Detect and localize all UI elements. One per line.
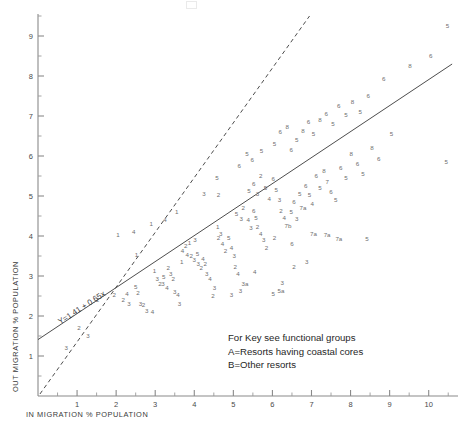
- data-point-label: 6: [307, 118, 311, 125]
- y-tick-label: 1: [29, 352, 33, 361]
- y-tick-label: 4: [29, 232, 33, 241]
- data-point-label: 8: [322, 167, 326, 174]
- data-point-label: 3: [178, 300, 182, 307]
- data-point-label: 7a: [299, 204, 306, 211]
- x-tick-label: 4: [192, 400, 196, 409]
- data-point-label: 5: [271, 290, 275, 297]
- data-point-label: 3: [262, 236, 266, 243]
- y-tick-label: 2: [29, 312, 33, 321]
- legend-line-key: For Key see functional groups: [228, 331, 363, 345]
- data-point-label: 7b: [285, 222, 292, 229]
- data-point-label: 3: [145, 307, 149, 314]
- x-tick-label: 3: [153, 400, 157, 409]
- data-point-label: 4: [311, 200, 315, 207]
- data-point-label: 5: [264, 184, 268, 191]
- data-point-label: 8: [286, 123, 290, 130]
- legend-block: For Key see functional groups A=Resorts …: [228, 331, 363, 372]
- data-point-label: 2: [171, 275, 175, 282]
- x-tick-label: 7: [309, 400, 313, 409]
- data-point-label: 2: [224, 247, 228, 254]
- data-point-label: 7a: [310, 230, 317, 237]
- data-point-label: 7a: [335, 235, 342, 242]
- data-point-label: 8: [370, 144, 374, 151]
- data-point-label: 3: [232, 252, 236, 259]
- data-point-label: 6: [314, 172, 318, 179]
- x-tick-label: 10: [425, 400, 433, 409]
- y-tick-label: 8: [29, 72, 33, 81]
- data-point-label: 2: [77, 324, 81, 331]
- data-point-label: 7: [325, 178, 329, 185]
- legend-line-a: A=Resorts having coastal cores: [228, 345, 363, 359]
- scatter-plot-figure: 12345678910123456789 3222435232341141323…: [0, 0, 466, 432]
- data-point-label: 4: [132, 228, 136, 235]
- data-point-label: 3: [193, 236, 197, 243]
- y-axis-title: OUT MIGRATION % POPULATION: [11, 261, 20, 392]
- data-point-label: 2: [211, 292, 215, 299]
- y-tick-label: 5: [29, 192, 33, 201]
- data-point-label: 5: [235, 210, 239, 217]
- data-point-label: 3: [64, 344, 68, 351]
- x-tick-label: 9: [388, 400, 392, 409]
- data-point-label: 6: [337, 102, 341, 109]
- data-point-label: 5: [312, 130, 316, 137]
- data-point-label: 4: [246, 216, 250, 223]
- data-point-label: 2: [292, 263, 296, 270]
- data-point-label: 2: [217, 191, 221, 198]
- data-point-label: 3: [278, 196, 282, 203]
- data-point-label: 1: [116, 231, 120, 238]
- y-tick-label: 9: [29, 32, 33, 41]
- data-point-label: 6: [250, 156, 254, 163]
- data-point-label: 6: [366, 92, 370, 99]
- data-point-label: 1: [180, 258, 184, 265]
- data-point-label: 6: [290, 240, 294, 247]
- data-point-label: 2: [121, 296, 125, 303]
- y-tick-label: 6: [29, 152, 33, 161]
- data-point-label: 5: [245, 150, 249, 157]
- data-point-label: 4: [282, 214, 286, 221]
- data-point-label: 3: [239, 287, 243, 294]
- data-point-label: 4: [165, 284, 169, 291]
- data-point-label: 5: [196, 250, 200, 257]
- data-point-label: 1: [153, 267, 157, 274]
- data-point-label: 4: [253, 268, 257, 275]
- y-tick-label: 3: [29, 272, 33, 281]
- data-point-label: 5: [445, 158, 449, 165]
- data-point-label: 8: [408, 62, 412, 69]
- data-point-label: 6: [325, 110, 329, 117]
- data-point-label: 5: [162, 273, 166, 280]
- legend-line-b: B=Other resorts: [228, 358, 363, 372]
- data-point-label: 2: [265, 244, 269, 251]
- data-point-label: 2: [273, 234, 277, 241]
- data-point-label: 3: [86, 332, 90, 339]
- data-point-label: 1: [150, 220, 154, 227]
- data-point-label: 3: [305, 258, 309, 265]
- data-point-label: 5: [298, 190, 302, 197]
- data-point-label: 4: [268, 195, 272, 202]
- data-point-label: 5: [273, 140, 277, 147]
- data-point-label: 5: [215, 174, 219, 181]
- data-point-label: 6: [279, 128, 283, 135]
- data-point-label: 5: [318, 184, 322, 191]
- data-point-label: 3: [256, 190, 260, 197]
- data-point-label: 3: [202, 190, 206, 197]
- data-point-label: 1: [135, 251, 139, 258]
- x-axis-title: IN MIGRATION % POPULATION: [26, 410, 148, 419]
- data-points-group: 3222435232341141323542323431421342353242…: [64, 22, 449, 352]
- data-point-label: 5: [365, 235, 369, 242]
- x-tick-label: 6: [270, 400, 274, 409]
- data-point-label: 5: [334, 196, 338, 203]
- data-point-label: 3a: [242, 280, 249, 287]
- data-point-label: 4: [125, 290, 129, 297]
- data-point-label: 6: [429, 52, 433, 59]
- x-tick-label: 5: [231, 400, 235, 409]
- data-point-label: 3: [280, 279, 284, 286]
- data-point-label: 4: [163, 216, 167, 223]
- x-tick-label: 8: [348, 400, 352, 409]
- data-point-label: 5: [227, 234, 231, 241]
- data-point-label: 6: [377, 155, 381, 162]
- data-point-label: 4: [236, 270, 240, 277]
- data-point-label: 4: [230, 244, 234, 251]
- data-point-label: 6: [339, 164, 343, 171]
- x-tick-label: 2: [114, 400, 118, 409]
- data-point-label: 6: [271, 175, 275, 182]
